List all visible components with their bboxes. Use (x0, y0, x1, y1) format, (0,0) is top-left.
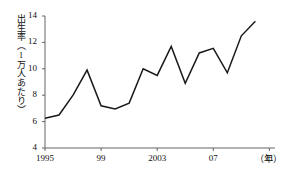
y-axis (42, 16, 45, 148)
x-axis-unit-label: （年） (255, 152, 282, 165)
birth-rate-line-chart: 出生率（1万人あたり） 141210864 19959920030711 （年） (0, 0, 292, 175)
x-tick-label: 2003 (141, 153, 173, 163)
y-tick-label: 8 (21, 89, 37, 99)
x-axis (45, 148, 275, 151)
x-tick-label: 07 (197, 153, 229, 163)
y-tick-label: 14 (21, 10, 37, 20)
x-tick-label: 99 (85, 153, 117, 163)
data-series-line (45, 21, 255, 118)
y-tick-label: 6 (21, 116, 37, 126)
y-tick-label: 10 (21, 63, 37, 73)
y-tick-label: 4 (21, 142, 37, 152)
y-tick-label: 12 (21, 36, 37, 46)
chart-plot-area (0, 0, 292, 175)
x-tick-label: 1995 (29, 153, 61, 163)
